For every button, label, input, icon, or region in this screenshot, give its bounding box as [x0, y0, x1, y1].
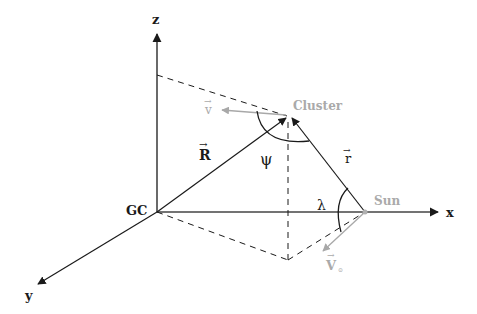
x-axis-label: x: [446, 205, 454, 220]
y-axis: [38, 212, 157, 284]
lambda-arc: [338, 188, 348, 232]
psi-arc: [257, 111, 309, 142]
psi-label: ψ: [260, 150, 273, 169]
sun-point: [363, 210, 368, 215]
dashed-origin-to-projection: [157, 212, 288, 260]
y-axis-label: y: [24, 288, 33, 303]
vector-V0-subscript: ⊙: [338, 266, 343, 273]
dashed-z-to-cluster: [157, 75, 287, 116]
vector-r-arrow: →: [343, 145, 351, 155]
vector-R-arrow: →: [199, 139, 208, 150]
z-axis-label: z: [152, 12, 159, 27]
lambda-label: λ: [317, 197, 326, 213]
vector-V0-arrow: →: [327, 250, 335, 260]
sun-label: Sun: [374, 194, 400, 208]
vector-V0-label: V: [325, 258, 337, 273]
gc-label: GC: [126, 203, 147, 218]
vector-V0: [323, 212, 365, 251]
diagram-canvas: z x y GC Cluster Sun R → r → v → V → ⊙ ψ…: [0, 0, 477, 314]
vector-v-arrow: →: [204, 96, 212, 106]
vector-r: [292, 118, 365, 212]
cluster-label: Cluster: [293, 99, 343, 113]
